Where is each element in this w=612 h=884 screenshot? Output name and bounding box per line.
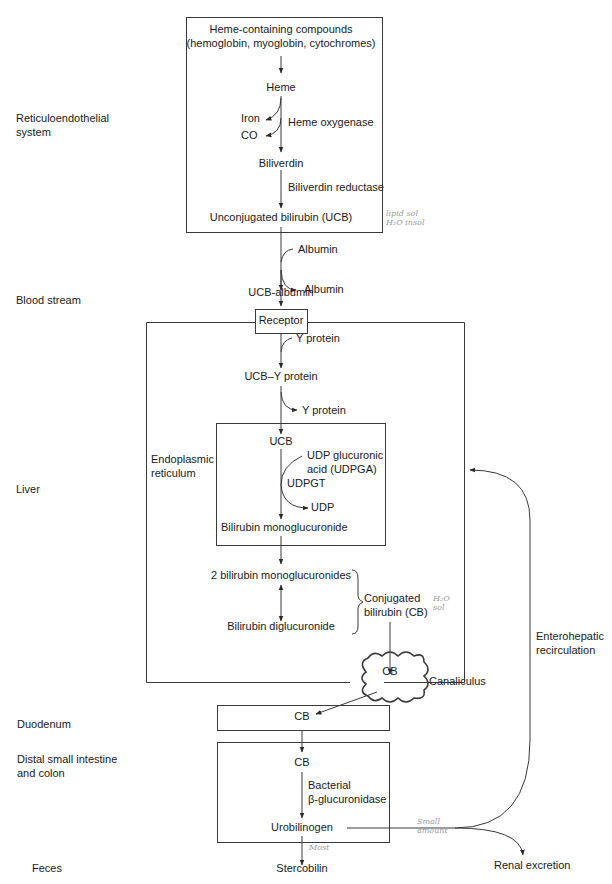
ucb: Unconjugated bilirubin (UCB) <box>210 211 352 225</box>
enterohepatic-recirculation: Enterohepatic recirculation <box>536 630 604 657</box>
h2o-annotation-line1: H₂O <box>433 594 450 603</box>
bacterial-line1: Bacterial <box>308 779 386 793</box>
biliverdin: Biliverdin <box>259 157 304 171</box>
conjugated-bilirubin: Conjugated bilirubin (CB) <box>364 592 428 619</box>
bacterial-line2: β-glucuronidase <box>308 793 386 807</box>
region-liver: Liver <box>16 483 40 497</box>
albumin-out: Albumin <box>304 283 344 297</box>
enterohepatic-line1: Enterohepatic <box>536 630 604 644</box>
distal-cb: CB <box>294 756 309 770</box>
urobilinogen: Urobilinogen <box>271 821 333 835</box>
er-ucb: UCB <box>269 435 292 449</box>
er-label: Endoplasmic reticulum <box>151 453 214 480</box>
duodenum-cb: CB <box>294 710 309 724</box>
region-res-line1: Reticuloendothelial <box>16 112 109 126</box>
er-label-line2: reticulum <box>151 467 214 481</box>
lipid-annotation: lipid sol H₂O insol <box>386 209 424 227</box>
bacterial-glucuronidase: Bacterial β-glucuronidase <box>308 779 386 806</box>
h2o-annotation-line2: sol <box>433 603 450 612</box>
udpgt: UDPGT <box>287 477 326 491</box>
small-line2: amount <box>417 826 448 835</box>
two-monoglucuronides: 2 bilirubin monoglucuronides <box>211 569 351 583</box>
heme-compounds-line2: (hemoglobin, myoglobin, cytochromes) <box>187 37 376 51</box>
region-res: Reticuloendothelial system <box>16 112 109 139</box>
region-blood: Blood stream <box>16 294 81 308</box>
iron: Iron <box>241 112 260 126</box>
region-distal-line2: and colon <box>17 767 117 781</box>
lipid-annotation-line1: lipid sol <box>386 209 424 218</box>
region-distal: Distal small intestine and colon <box>17 753 117 780</box>
y-protein-out: Y protein <box>302 404 346 418</box>
udp: UDP <box>311 501 334 515</box>
y-protein-in: Y protein <box>296 332 340 346</box>
conjugated-line1: Conjugated <box>364 592 428 606</box>
heme-compounds: Heme-containing compounds (hemoglobin, m… <box>187 23 376 50</box>
heme: Heme <box>266 81 295 95</box>
h2o-annotation: H₂O sol <box>433 594 450 612</box>
bilirubin-monoglucuronide: Bilirubin monoglucuronide <box>221 521 348 535</box>
canaliculus-label: Canaliculus <box>429 675 486 689</box>
region-res-line2: system <box>16 126 109 140</box>
udpga-line2: acid (UDPGA) <box>307 463 383 477</box>
heme-oxygenase: Heme oxygenase <box>288 116 374 130</box>
biliverdin-reductase: Biliverdin reductase <box>288 181 384 195</box>
conjugated-line2: bilirubin (CB) <box>364 606 428 620</box>
udpga-line1: UDP glucuronic <box>307 449 383 463</box>
stercobilin: Stercobilin <box>276 862 327 876</box>
bilirubin-diglucuronide: Bilirubin diglucuronide <box>227 620 335 634</box>
udpga: UDP glucuronic acid (UDPGA) <box>307 449 383 476</box>
region-feces: Feces <box>32 862 62 876</box>
ucb-y-protein: UCB–Y protein <box>244 370 317 384</box>
most-annotation: Most <box>309 843 329 852</box>
region-distal-line1: Distal small intestine <box>17 753 117 767</box>
enterohepatic-line2: recirculation <box>536 644 604 658</box>
receptor: Receptor <box>259 314 304 328</box>
canaliculus-cb: CB <box>382 665 397 679</box>
co: CO <box>241 129 258 143</box>
lipid-annotation-line2: H₂O insol <box>386 218 424 227</box>
renal-excretion: Renal excretion <box>494 859 570 873</box>
small-line1: Small <box>417 817 448 826</box>
small-amount-annotation: Small amount <box>417 817 448 835</box>
er-label-line1: Endoplasmic <box>151 453 214 467</box>
heme-compounds-line1: Heme-containing compounds <box>187 23 376 37</box>
albumin-in: Albumin <box>298 243 338 257</box>
region-duodenum: Duodenum <box>17 718 71 732</box>
